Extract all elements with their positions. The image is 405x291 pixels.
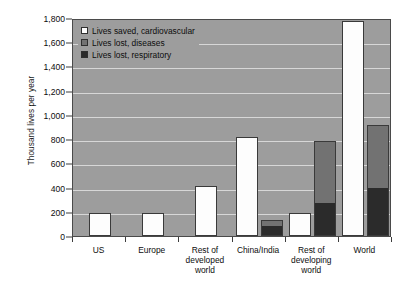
x-axis-label: Rest of developing world: [291, 245, 332, 276]
bar-lives-saved: [236, 137, 258, 236]
bar-lives-saved: [195, 186, 217, 236]
legend-swatch-saved-icon: [81, 27, 88, 34]
y-tick-label: 400: [21, 184, 65, 194]
bar-lives-lost-stack: [261, 220, 283, 236]
legend-swatch-respiratory-icon: [81, 51, 88, 58]
x-axis-label: Rest of developed world: [186, 245, 225, 276]
legend-item: Lives lost, respiratory: [81, 49, 195, 60]
bar-lives-saved: [89, 213, 111, 236]
y-tick-label: 1,200: [21, 87, 65, 97]
y-tick-label: 0: [21, 232, 65, 242]
x-tick-mark: [232, 237, 233, 242]
x-tick-mark: [285, 237, 286, 242]
x-tick-mark: [338, 237, 339, 242]
x-axis-label: World: [354, 245, 376, 255]
legend-label: Lives saved, cardiovascular: [92, 26, 195, 36]
y-tick-label: 1,800: [21, 14, 65, 24]
x-tick-mark: [178, 237, 179, 242]
y-tick-label: 600: [21, 159, 65, 169]
bar-lives-lost-stack: [367, 125, 389, 236]
x-axis-label: China/India: [237, 245, 279, 255]
chart-legend: Lives saved, cardiovascular Lives lost, …: [78, 23, 199, 64]
bar-chart: Thousand lives per year 02004006008001,0…: [0, 0, 405, 291]
x-tick-mark: [391, 237, 392, 242]
legend-item: Lives saved, cardiovascular: [81, 25, 195, 36]
y-tick-label: 800: [21, 135, 65, 145]
segment-diseases: [368, 125, 388, 188]
y-tick-label: 1,000: [21, 111, 65, 121]
x-tick-mark: [125, 237, 126, 242]
bar-lives-lost-stack: [314, 141, 336, 236]
y-tick-label: 1,600: [21, 38, 65, 48]
x-axis-label: Europe: [138, 245, 165, 255]
segment-respiratory: [262, 226, 282, 235]
y-tick-label: 200: [21, 208, 65, 218]
legend-label: Lives lost, respiratory: [92, 50, 171, 60]
legend-item: Lives lost, diseases: [81, 37, 195, 48]
bar-lives-saved: [342, 21, 364, 236]
x-tick-mark: [72, 237, 73, 242]
y-tick-label: 1,400: [21, 62, 65, 72]
x-axis-label: US: [93, 245, 105, 255]
legend-swatch-diseases-icon: [81, 39, 88, 46]
bar-lives-saved: [142, 213, 164, 236]
segment-respiratory: [315, 203, 335, 235]
segment-respiratory: [368, 188, 388, 235]
segment-diseases: [315, 141, 335, 203]
segment-diseases: [262, 220, 282, 226]
bar-lives-saved: [289, 213, 311, 236]
legend-label: Lives lost, diseases: [92, 38, 165, 48]
